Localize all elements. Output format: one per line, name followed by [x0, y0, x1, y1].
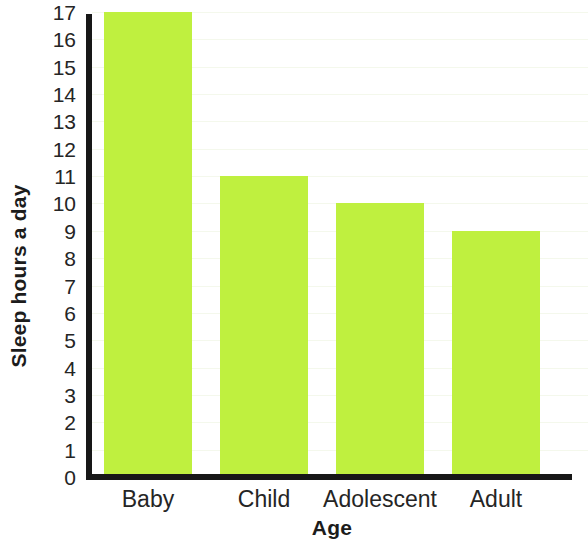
x-tick-label: Child [198, 484, 330, 514]
y-axis-tick-labels: 17161514131211109876543210 [40, 0, 82, 500]
y-tick-label: 3 [40, 384, 82, 405]
x-axis-line [86, 474, 572, 480]
y-tick-label: 12 [40, 138, 82, 159]
x-axis-tick-labels: BabyChildAdolescentAdult [92, 484, 588, 518]
bar-series [92, 12, 588, 477]
x-tick-label: Adult [430, 484, 562, 514]
y-tick-label: 5 [40, 330, 82, 351]
bar-adult [452, 231, 540, 477]
y-axis-title: Sleep hours a day [7, 126, 31, 426]
y-tick-label: 9 [40, 220, 82, 241]
y-tick-label: 0 [40, 467, 82, 488]
y-tick-label: 4 [40, 357, 82, 378]
y-tick-label: 10 [40, 193, 82, 214]
y-tick-label: 11 [40, 166, 82, 187]
bar-chart-figure: / Sleep hours a day 17161514131211109876… [0, 0, 588, 550]
y-tick-label: 16 [40, 29, 82, 50]
y-tick-label: 15 [40, 56, 82, 77]
x-axis-title: Age [92, 516, 572, 540]
y-tick-label: 14 [40, 84, 82, 105]
bar-child [220, 176, 308, 477]
bar-adolescent [336, 203, 424, 477]
x-tick-label: Baby [82, 484, 214, 514]
bar-baby [104, 12, 192, 477]
y-tick-label: 17 [40, 2, 82, 23]
y-tick-label: 7 [40, 275, 82, 296]
y-tick-label: 6 [40, 302, 82, 323]
plot-area [92, 12, 588, 477]
x-tick-label: Adolescent [314, 484, 446, 514]
y-tick-label: 1 [40, 439, 82, 460]
y-tick-label: 8 [40, 248, 82, 269]
y-tick-label: 2 [40, 412, 82, 433]
y-tick-label: 13 [40, 111, 82, 132]
y-axis-line [86, 14, 92, 480]
